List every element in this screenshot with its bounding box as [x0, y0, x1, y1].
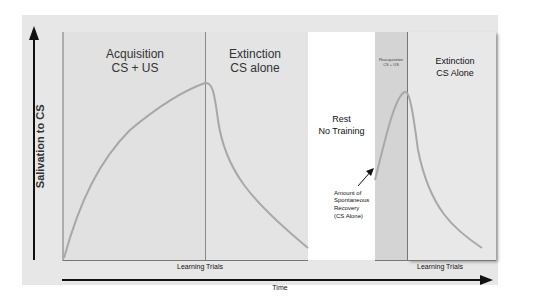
x-sublabel-right: Learning Trials	[390, 263, 490, 271]
ext2-title: Extinction	[420, 56, 490, 66]
x-axis-label: Time	[250, 284, 310, 292]
rest-title: Rest	[308, 114, 375, 124]
chart-svg	[0, 0, 535, 304]
y-axis-arrow-icon	[29, 26, 39, 40]
ext2-sub: CS Alone	[420, 68, 490, 78]
ext1-sub: CS alone	[215, 62, 295, 76]
ext1-title: Extinction	[215, 48, 295, 62]
annotation-line-2: Spontaneous	[334, 197, 369, 204]
curve-acquisition-extinction	[64, 83, 308, 258]
acq-sub: CS + US	[95, 62, 175, 76]
annotation-line-1: Amount of	[334, 190, 361, 197]
rest-sub: No Training	[303, 126, 380, 136]
y-axis-label: Salivation to CS	[34, 86, 47, 206]
annotation-line-4: (CS Alone)	[334, 213, 363, 220]
x-axis-arrow-icon	[480, 275, 493, 285]
annotation-line-3: Recovery	[334, 205, 359, 212]
curve-reacquisition-extinction	[375, 92, 482, 248]
reacq-sub: CS + US	[372, 63, 410, 68]
x-sublabel-left: Learning Trials	[150, 263, 250, 271]
acq-title: Acquisition	[95, 48, 175, 62]
